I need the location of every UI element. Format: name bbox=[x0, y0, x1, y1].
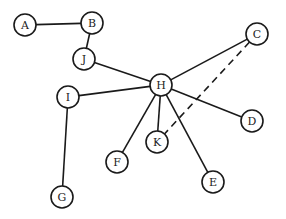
node-label: I bbox=[66, 91, 70, 104]
edge-a-b bbox=[36, 23, 81, 24]
edge-h-k bbox=[158, 96, 160, 131]
edge-c-k bbox=[164, 42, 249, 134]
node-b: B bbox=[81, 12, 103, 34]
node-j: J bbox=[73, 48, 95, 70]
edge-h-c bbox=[171, 39, 248, 80]
node-label: H bbox=[156, 79, 166, 92]
node-f: F bbox=[106, 151, 128, 173]
node-label: G bbox=[58, 191, 67, 204]
node-label: D bbox=[248, 115, 257, 128]
graph-diagram: ABJCHIDKFEG bbox=[0, 0, 286, 219]
edge-j-h bbox=[94, 63, 150, 82]
node-a: A bbox=[14, 14, 36, 36]
node-label: J bbox=[81, 53, 86, 66]
node-label: F bbox=[113, 156, 121, 169]
node-label: E bbox=[209, 176, 217, 189]
node-label: K bbox=[153, 136, 162, 149]
node-i: I bbox=[57, 86, 79, 108]
node-g: G bbox=[51, 186, 73, 208]
edge-b-j bbox=[86, 34, 89, 49]
node-e: E bbox=[202, 171, 224, 193]
node-h: H bbox=[150, 74, 172, 96]
edge-i-g bbox=[63, 108, 68, 186]
edge-h-e bbox=[166, 95, 208, 173]
node-label: C bbox=[253, 28, 261, 41]
edge-i-h bbox=[79, 86, 150, 95]
node-label: A bbox=[20, 19, 30, 32]
node-label: B bbox=[88, 17, 96, 30]
node-c: C bbox=[246, 23, 268, 45]
nodes-layer: ABJCHIDKFEG bbox=[14, 12, 268, 208]
node-k: K bbox=[146, 131, 168, 153]
node-d: D bbox=[241, 110, 263, 132]
edge-h-d bbox=[171, 89, 242, 117]
